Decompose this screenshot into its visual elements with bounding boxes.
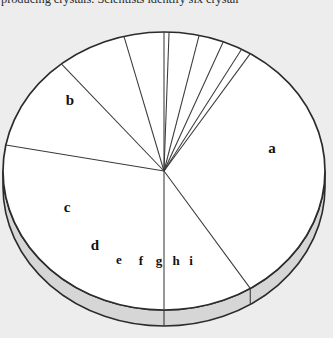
- pie-slice-label-g: g: [156, 253, 163, 268]
- pie-slice-label-b: b: [66, 92, 74, 108]
- pie-slice-label-f: f: [139, 253, 144, 268]
- pie-slice-label-h: h: [172, 253, 180, 268]
- pie-slice-label-d: d: [91, 237, 100, 253]
- pie-slice-label-a: a: [268, 140, 276, 156]
- pie-chart: abcdefghi: [0, 0, 333, 338]
- pie-slice-label-c: c: [64, 199, 71, 215]
- pie-chart-svg: abcdefghi: [0, 0, 333, 338]
- pie-slice-label-e: e: [116, 252, 122, 267]
- page-root: producing crystals. Scientists identify …: [0, 0, 333, 338]
- pie-slice-label-i: i: [189, 253, 193, 268]
